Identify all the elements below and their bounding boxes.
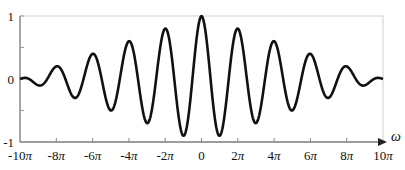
x-axis-label: ω: [391, 129, 401, 144]
x-tick-label: 2π: [231, 148, 245, 163]
x-tick-label: 0: [198, 148, 205, 163]
chart: -10π-8π-6π-4π-2π02π4π6π8π10π 10-1 ω: [0, 0, 405, 170]
x-tick-label: 8π: [340, 148, 354, 163]
x-tick-label: -2π: [157, 148, 175, 163]
x-tick-label: 10π: [373, 148, 393, 163]
x-tick-label: 4π: [268, 148, 282, 163]
x-tick-label: -6π: [84, 148, 102, 163]
y-tick-label: 1: [8, 9, 15, 24]
x-tick-label: -8π: [48, 148, 66, 163]
x-tick-label: -4π: [120, 148, 138, 163]
x-tick-label: -10π: [8, 148, 32, 163]
y-tick-label: -1: [3, 135, 14, 150]
plot-frame: [20, 16, 383, 142]
y-tick-label: 0: [8, 72, 15, 87]
signal-curve: [20, 16, 383, 136]
x-tick-label: 6π: [304, 148, 318, 163]
